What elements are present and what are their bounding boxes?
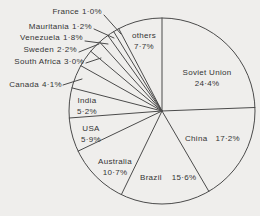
slice-label-mauritania: Mauritania1·2% [29,22,92,32]
slice-value: 10·7% [98,167,132,178]
pie-chart-figure: France1·0% Mauritania1·2% Venezuela1·8% … [0,0,260,216]
slice-name: Soviet Union [183,67,232,78]
slice-value: 5·2% [77,106,97,117]
slice-name: Mauritania [29,22,69,31]
slice-label-france: France1·0% [52,7,102,17]
slice-name: France [52,7,79,16]
slice-value: 7·7% [132,41,156,52]
slice-name: India [77,95,97,106]
slice-label-brazil: Brazil15·6% [140,173,196,183]
slice-value: 15·6% [172,173,197,182]
slice-value: 1·2% [72,22,92,31]
slice-value: 17·2% [215,134,240,143]
slice-name: China [185,134,207,143]
label-leader-line [86,58,101,63]
slice-name: Canada [9,80,39,89]
slice-name: Sweden [23,45,54,54]
slice-label-canada: Canada4·1% [9,80,62,90]
slice-label-south-africa: South Africa3·0% [14,57,84,67]
slice-label-usa: USA 5·9% [81,123,101,145]
slice-name: South Africa [14,57,61,66]
slice-name: Australia [98,156,132,167]
slice-label-venezuela: Venezuela1·8% [20,33,83,43]
slice-label-india: India 5·2% [77,95,97,117]
slice-label-australia: Australia 10·7% [98,156,132,178]
slice-value: 24·4% [183,78,232,89]
slice-value: 3·0% [64,57,84,66]
slice-name: Brazil [140,173,162,182]
label-leader-line [79,44,99,52]
slice-label-sweden: Sweden2·2% [23,45,77,55]
slice-label-soviet-union: Soviet Union 24·4% [183,67,232,89]
slice-value: 1·0% [82,7,102,16]
slice-name: Venezuela [20,33,60,42]
slice-value: 1·8% [63,33,83,42]
slice-name: others [132,30,156,41]
slice-name: USA [81,123,101,134]
slice-boundary-line [162,107,255,111]
label-leader-line [85,41,108,44]
label-leader-line [104,15,121,34]
slice-label-china: China17·2% [185,134,240,144]
slice-value: 4·1% [42,80,62,89]
slice-value: 5·9% [81,134,101,145]
slice-value: 2·2% [57,45,77,54]
slice-label-others: others 7·7% [132,30,156,52]
